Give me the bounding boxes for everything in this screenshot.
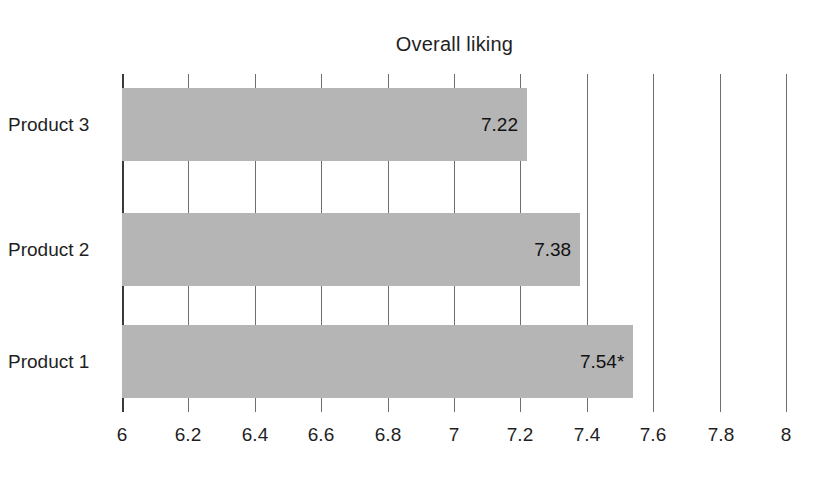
x-tick-6-8: 6.8 (375, 424, 401, 446)
bar-value-product-1: 7.54* (580, 351, 624, 373)
bar-product-1[interactable]: 7.54* (122, 325, 633, 398)
x-axis: 6 6.2 6.4 6.6 6.8 7 7.2 7.4 7.6 7.8 8 (0, 424, 835, 464)
bar-value-product-2: 7.38 (534, 239, 571, 261)
bar-product-2[interactable]: 7.38 (122, 213, 580, 286)
category-axis: Product 3 Product 2 Product 1 (8, 74, 118, 412)
x-tick-6-6: 6.6 (308, 424, 334, 446)
x-tick-6-2: 6.2 (175, 424, 201, 446)
bar-product-3[interactable]: 7.22 (122, 88, 527, 161)
plot-area: 7.22 7.38 7.54* (122, 74, 786, 412)
gridline-7-8 (720, 74, 721, 412)
x-tick-6: 6 (117, 424, 128, 446)
chart-title-text: Overall liking (396, 33, 513, 56)
x-tick-6-4: 6.4 (242, 424, 268, 446)
category-label-product-3: Product 3 (8, 114, 118, 136)
gridline-8 (786, 74, 787, 412)
bar-value-product-3: 7.22 (481, 114, 518, 136)
x-tick-7-6: 7.6 (640, 424, 666, 446)
chart-container: Overall liking Product 3 Product 2 Produ… (0, 0, 835, 480)
x-tick-7-8: 7.8 (708, 424, 734, 446)
x-tick-8: 8 (781, 424, 792, 446)
chart-title: Overall liking (0, 33, 835, 56)
category-label-product-1: Product 1 (8, 351, 118, 373)
category-label-product-2: Product 2 (8, 239, 118, 261)
x-tick-7: 7 (449, 424, 460, 446)
x-tick-7-2: 7.2 (507, 424, 533, 446)
gridline-7-6 (653, 74, 654, 412)
x-tick-7-4: 7.4 (574, 424, 600, 446)
